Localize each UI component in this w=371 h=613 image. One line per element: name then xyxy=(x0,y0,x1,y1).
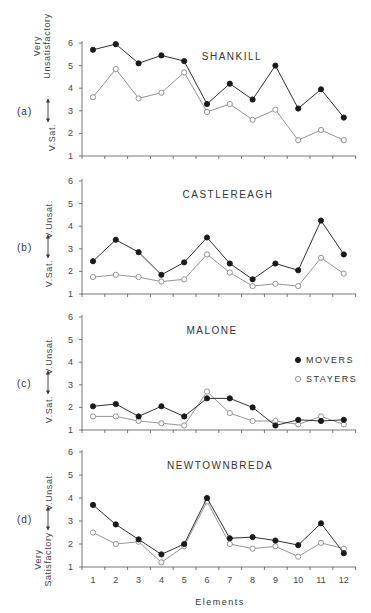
y-tick-label: 6 xyxy=(68,176,73,186)
filled-circle-marker xyxy=(227,81,232,86)
open-circle-marker xyxy=(136,96,141,101)
filled-circle-marker xyxy=(90,259,95,264)
filled-circle-marker xyxy=(250,277,255,282)
filled-circle-marker xyxy=(318,418,323,423)
open-circle-marker xyxy=(90,530,95,535)
panel-newtownbreda: 123456NEWTOWNBREDA(d)V.Unsat.VerySatisfa… xyxy=(17,447,356,607)
y-label-bottom: V.Sat. xyxy=(47,124,57,151)
panel-malone: 123456MALONE(c)V.Unsat.V.Sat.MOVERSSTAYE… xyxy=(17,312,357,435)
open-circle-marker xyxy=(318,540,323,545)
open-circle-marker xyxy=(182,277,187,282)
filled-circle-marker xyxy=(136,250,141,255)
arrow-up-icon xyxy=(46,99,50,103)
y-label-top: V.Unsat. xyxy=(44,200,54,239)
movers-legend-marker xyxy=(295,357,300,362)
x-tick-label: 12 xyxy=(339,575,349,585)
arrow-down-icon xyxy=(46,255,50,259)
open-circle-marker xyxy=(227,541,232,546)
filled-circle-marker xyxy=(182,260,187,265)
y-tick-label: 4 xyxy=(68,83,73,93)
y-tick-label: 6 xyxy=(68,312,73,322)
filled-circle-marker xyxy=(341,417,346,422)
open-circle-marker xyxy=(341,138,346,143)
y-tick-label: 3 xyxy=(68,380,73,390)
y-tick-label: 5 xyxy=(68,61,73,71)
series-line-stayers xyxy=(93,501,344,562)
filled-circle-marker xyxy=(204,101,209,106)
panel-label: (d) xyxy=(17,514,32,525)
open-circle-marker xyxy=(113,541,118,546)
open-circle-marker xyxy=(341,271,346,276)
series-line-stayers xyxy=(93,254,344,286)
panel-label: (c) xyxy=(17,378,32,389)
open-circle-marker xyxy=(250,546,255,551)
filled-circle-marker xyxy=(136,414,141,419)
open-circle-marker xyxy=(227,410,232,415)
open-circle-marker xyxy=(90,95,95,100)
open-circle-marker xyxy=(136,274,141,279)
arrow-down-icon xyxy=(46,391,50,395)
filled-circle-marker xyxy=(318,218,323,223)
open-circle-marker xyxy=(159,90,164,95)
filled-circle-marker xyxy=(136,537,141,542)
y-tick-label: 2 xyxy=(68,128,73,138)
y-tick-label: 3 xyxy=(68,244,73,254)
filled-circle-marker xyxy=(250,97,255,102)
filled-circle-marker xyxy=(296,268,301,273)
x-tick-label: 1 xyxy=(90,575,95,585)
y-label-bottom: VerySatisfactory xyxy=(33,532,53,586)
open-circle-marker xyxy=(318,255,323,260)
filled-circle-marker xyxy=(204,235,209,240)
x-tick-label: 5 xyxy=(182,575,187,585)
filled-circle-marker xyxy=(273,538,278,543)
open-circle-marker xyxy=(113,272,118,277)
filled-circle-marker xyxy=(250,535,255,540)
filled-circle-marker xyxy=(296,106,301,111)
open-circle-marker xyxy=(227,270,232,275)
y-tick-label: 6 xyxy=(68,447,73,457)
legend: MOVERSSTAYERS xyxy=(295,355,357,384)
filled-circle-marker xyxy=(113,522,118,527)
panel-label: (b) xyxy=(17,242,32,253)
filled-circle-marker xyxy=(296,543,301,548)
filled-circle-marker xyxy=(159,53,164,58)
y-tick-label: 4 xyxy=(68,493,73,503)
y-tick-label: 1 xyxy=(68,289,73,299)
open-circle-marker xyxy=(159,421,164,426)
filled-circle-marker xyxy=(113,401,118,406)
filled-circle-marker xyxy=(159,272,164,277)
y-tick-label: 3 xyxy=(68,516,73,526)
legend-label: MOVERS xyxy=(306,355,354,365)
filled-circle-marker xyxy=(159,404,164,409)
y-tick-label: 1 xyxy=(68,562,73,572)
y-tick-label: 4 xyxy=(68,221,73,231)
filled-circle-marker xyxy=(182,541,187,546)
y-label-top: V.Unsat. xyxy=(44,472,54,511)
y-tick-label: 4 xyxy=(68,357,73,367)
filled-circle-marker xyxy=(113,42,118,47)
open-circle-marker xyxy=(90,274,95,279)
series-line-stayers xyxy=(93,69,344,140)
y-tick-label: 2 xyxy=(68,402,73,412)
open-circle-marker xyxy=(204,109,209,114)
open-circle-marker xyxy=(159,560,164,565)
filled-circle-marker xyxy=(90,502,95,507)
panel-title: SHANKILL xyxy=(202,51,262,62)
open-circle-marker xyxy=(250,418,255,423)
y-tick-label: 6 xyxy=(68,38,73,48)
x-axis-label: Elements xyxy=(195,597,245,607)
x-tick-label: 11 xyxy=(316,575,325,585)
open-circle-marker xyxy=(227,101,232,106)
filled-circle-marker xyxy=(318,87,323,92)
filled-circle-marker xyxy=(204,495,209,500)
x-tick-label: 7 xyxy=(227,575,232,585)
open-circle-marker xyxy=(296,283,301,288)
open-circle-marker xyxy=(204,389,209,394)
y-tick-label: 1 xyxy=(68,151,73,161)
open-circle-marker xyxy=(273,281,278,286)
x-tick-label: 4 xyxy=(159,575,164,585)
filled-circle-marker xyxy=(341,551,346,556)
filled-circle-marker xyxy=(273,63,278,68)
figure: 123456SHANKILL(a)VeryUnsatisfactoryV.Sat… xyxy=(0,0,371,613)
filled-circle-marker xyxy=(273,261,278,266)
